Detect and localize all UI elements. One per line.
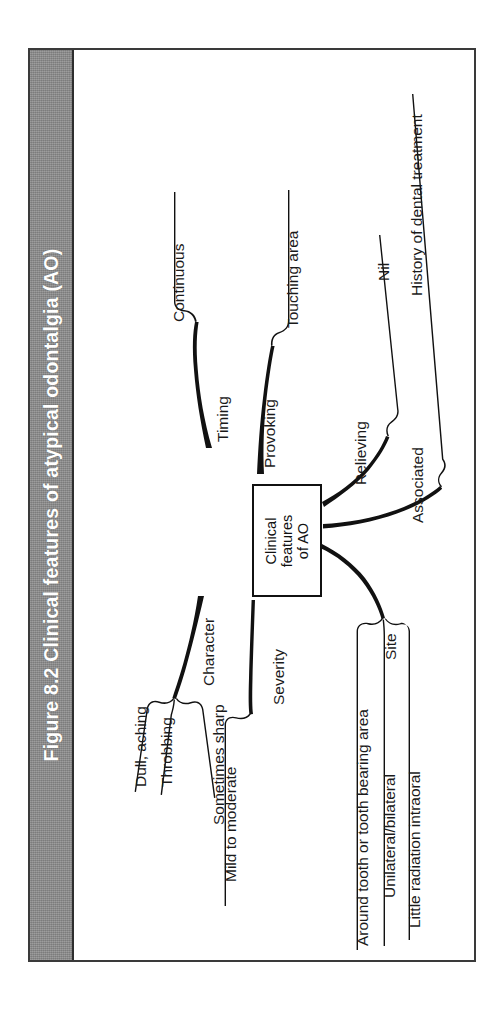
leaf-label-unilateral-bilateral: Unilateral/bilateral [381,774,399,898]
branch-line-severity [249,600,255,715]
branch-label-timing: Timing [214,396,232,442]
leaf-label-touching-area: Touching area [284,231,302,328]
branch-line-timing [193,322,212,448]
leaf-label-continuous: Continuous [170,244,188,322]
central-node: Clinical features of AO [252,484,322,597]
leaf-label-nil: Nil [375,263,393,281]
branch-label-provoking: Provoking [261,399,279,468]
branch-line-site [320,544,385,619]
leaf-label-history-of-dental-treatment: History of dental treatment [408,114,426,296]
branch-label-site: Site [382,633,400,660]
mindmap-canvas: Clinical features of AO Timing Continuou… [74,50,474,960]
leaf-label-throbbing: Throbbing [158,717,176,787]
branch-label-relieving: Relieving [352,421,370,485]
leaf-label-little-radiation-intraoral: Little radiation intraoral [406,771,424,928]
branch-label-character: Character [200,618,218,686]
branch-label-severity: Severity [270,649,288,705]
leaf-label-mild-to-moderate: Mild to moderate [222,767,240,882]
leaf-label-around-tooth-or-tooth-bearing-area: Around tooth or tooth bearing area [354,709,372,946]
figure-page: Figure 8.2 Clinical features of atypical… [0,0,504,1014]
central-node-label: Clinical features of AO [263,514,312,566]
figure-caption-bar: Figure 8.2 Clinical features of atypical… [30,50,74,960]
leaf-label-dull-aching: Dull, aching [132,706,150,787]
branch-label-associated: Associated [409,447,427,523]
figure-caption-text: Figure 8.2 Clinical features of atypical… [40,249,63,762]
figure-frame: Figure 8.2 Clinical features of atypical… [28,48,476,962]
